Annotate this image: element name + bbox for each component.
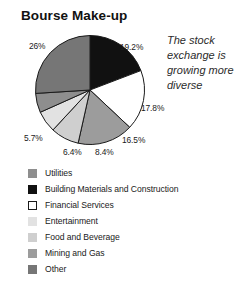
chart-caption: The stock exchange is growing more diver…	[167, 33, 243, 93]
legend-item[interactable]: Building Materials and Construction	[28, 184, 228, 195]
legend-item-label: Utilities	[45, 168, 72, 179]
legend-item-label: Building Materials and Construction	[45, 184, 178, 195]
legend-swatch-icon	[28, 249, 37, 258]
legend-swatch-icon	[28, 201, 37, 210]
legend-swatch-icon	[28, 265, 37, 274]
legend-item-label: Financial Services	[45, 200, 114, 211]
legend-item-label: Mining and Gas	[45, 248, 105, 259]
pie-value-label-financial-services: 17.8%	[141, 103, 164, 113]
legend-item-label: Other	[45, 264, 66, 275]
pie-value-label-building-materials: 19.2%	[120, 42, 143, 52]
legend-item[interactable]: Other	[28, 264, 228, 275]
pie-value-label-other: 26%	[29, 41, 45, 51]
legend-item-label: Food and Beverage	[45, 232, 120, 243]
pie-value-label-utilities: 5.7%	[24, 133, 43, 143]
legend-swatch-icon	[28, 233, 37, 242]
legend-item[interactable]: Financial Services	[28, 200, 228, 211]
legend-item[interactable]: Entertainment	[28, 216, 228, 227]
legend-item[interactable]: Utilities	[28, 168, 228, 179]
pie-value-label-entertainment: 6.4%	[63, 147, 82, 157]
pie-value-label-mining-and-gas: 16.5%	[122, 135, 145, 145]
legend-swatch-icon	[28, 169, 37, 178]
chart-legend: UtilitiesBuilding Materials and Construc…	[28, 168, 228, 280]
legend-item[interactable]: Food and Beverage	[28, 232, 228, 243]
legend-item[interactable]: Mining and Gas	[28, 248, 228, 259]
legend-item-label: Entertainment	[45, 216, 98, 227]
legend-swatch-icon	[28, 185, 37, 194]
legend-swatch-icon	[28, 217, 37, 226]
pie-value-label-food-and-beverage: 8.4%	[95, 147, 114, 157]
chart-title: Bourse Make-up	[21, 8, 127, 23]
